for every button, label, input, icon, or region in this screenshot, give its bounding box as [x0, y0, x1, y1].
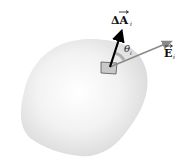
area-vector-symbol: ΔA [111, 14, 129, 27]
field-vector-label: E i [164, 45, 175, 61]
field-vector-symbol: E [164, 47, 172, 60]
field-vector-subscript: i [173, 53, 175, 60]
area-vector-subscript: i [130, 20, 132, 27]
angle-subscript: i [130, 50, 132, 56]
area-vector-label: ΔA i [111, 11, 132, 28]
area-element [101, 62, 117, 74]
closed-surface [21, 39, 148, 156]
gauss-surface-diagram: ΔA i θ i E i [0, 0, 186, 160]
